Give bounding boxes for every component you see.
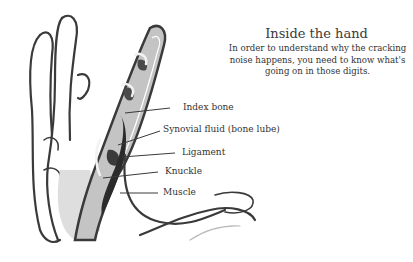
label-ligament: Ligament <box>182 147 225 157</box>
label-index-bone: Index bone <box>183 102 234 112</box>
label-knuckle: Knuckle <box>165 166 202 176</box>
diagram-description: In order to understand why the cracking … <box>222 43 413 78</box>
label-muscle: Muscle <box>163 187 196 197</box>
index-finger <box>75 26 165 240</box>
diagram-title: Inside the hand <box>220 26 413 41</box>
label-synovial-fluid: Synovial fluid (bone lube) <box>163 124 280 134</box>
